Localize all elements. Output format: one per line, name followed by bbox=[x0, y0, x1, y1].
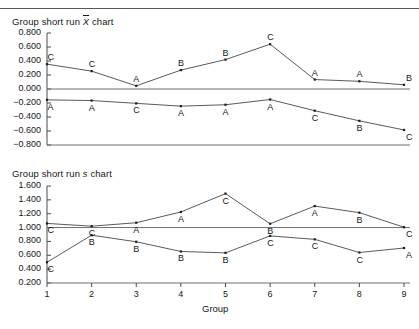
y-tick-label: 0.600 bbox=[0, 249, 41, 259]
y-tick-label: −0.200 bbox=[0, 97, 41, 107]
point-label: A bbox=[312, 68, 318, 78]
y-tick-label: 0.800 bbox=[0, 235, 41, 245]
x-tick-label: 1 bbox=[35, 289, 59, 299]
point-label: A bbox=[133, 225, 139, 235]
x-tick-label: 9 bbox=[392, 289, 416, 299]
point-label: B bbox=[267, 226, 273, 236]
xbar-chart-plot: 0.8000.6000.4000.2000.000−0.200−0.400−0.… bbox=[0, 0, 419, 170]
point-label: C bbox=[267, 238, 274, 248]
point-label: A bbox=[178, 108, 184, 118]
point-label: C bbox=[267, 32, 274, 42]
point-label: C bbox=[312, 113, 319, 123]
point-label: A bbox=[178, 214, 184, 224]
point-label: A bbox=[267, 102, 273, 112]
point-label: C bbox=[133, 105, 140, 115]
point-label: A bbox=[48, 102, 54, 112]
y-tick-label: 1.600 bbox=[0, 180, 41, 190]
point-label: A bbox=[312, 208, 318, 218]
y-tick-label: 1.400 bbox=[0, 194, 41, 204]
y-tick-label: 0.200 bbox=[0, 277, 41, 287]
point-label: A bbox=[133, 74, 139, 84]
x-tick-label: 5 bbox=[214, 289, 238, 299]
x-tick-label: 3 bbox=[124, 289, 148, 299]
point-label: C bbox=[406, 229, 413, 239]
point-label: A bbox=[223, 107, 229, 117]
figure-page: Group short run X chart 0.8000.6000.4000… bbox=[0, 0, 419, 329]
x-axis-label: Group bbox=[202, 303, 228, 314]
x-tick-label: 7 bbox=[303, 289, 327, 299]
s-chart-plot: 1.6001.4001.2001.0000.8000.6000.4000.200… bbox=[0, 170, 419, 329]
y-tick-label: 0.200 bbox=[0, 69, 41, 79]
point-label: C bbox=[48, 225, 55, 235]
point-label: B bbox=[406, 73, 412, 83]
x-tick-label: 2 bbox=[80, 289, 104, 299]
y-tick-label: 1.000 bbox=[0, 222, 41, 232]
point-label: B bbox=[178, 253, 184, 263]
y-tick-label: −0.400 bbox=[0, 111, 41, 121]
y-tick-label: 0.600 bbox=[0, 41, 41, 51]
point-label: A bbox=[406, 250, 412, 260]
point-label: A bbox=[89, 103, 95, 113]
point-label: C bbox=[89, 59, 96, 69]
point-label: B bbox=[133, 244, 139, 254]
point-label: B bbox=[223, 48, 229, 58]
x-tick-label: 8 bbox=[347, 289, 371, 299]
point-label: B bbox=[89, 237, 95, 247]
point-label: C bbox=[312, 241, 319, 251]
y-tick-label: −0.600 bbox=[0, 125, 41, 135]
y-tick-label: 0.400 bbox=[0, 55, 41, 65]
point-label: B bbox=[356, 123, 362, 133]
x-tick-label: 6 bbox=[258, 289, 282, 299]
point-label: B bbox=[178, 58, 184, 68]
point-label: C bbox=[406, 132, 413, 142]
point-label: B bbox=[223, 255, 229, 265]
point-label: C bbox=[48, 52, 55, 62]
point-label: C bbox=[356, 255, 363, 265]
point-label: B bbox=[356, 215, 362, 225]
y-tick-label: 0.000 bbox=[0, 83, 41, 93]
y-tick-label: −0.800 bbox=[0, 139, 41, 149]
point-label: C bbox=[48, 264, 55, 274]
y-tick-label: 0.800 bbox=[0, 27, 41, 37]
x-tick-label: 4 bbox=[169, 289, 193, 299]
point-label: C bbox=[223, 196, 230, 206]
y-tick-label: 1.200 bbox=[0, 208, 41, 218]
y-tick-label: 0.400 bbox=[0, 263, 41, 273]
point-label: A bbox=[356, 69, 362, 79]
